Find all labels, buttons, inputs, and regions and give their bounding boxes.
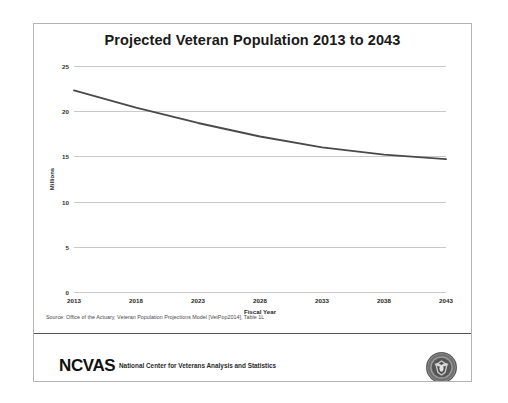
ncvas-wordmark: NCVAS [59,356,115,376]
y-tick-label: 0 [66,289,69,296]
slide-card: Projected Veteran Population 2013 to 204… [33,23,472,382]
x-tick-label: 2018 [129,297,143,304]
va-seal-icon [425,351,458,382]
x-tick-label: 2033 [315,297,329,304]
gridline [74,292,446,293]
line-series [74,66,446,292]
plot-area: 0510152025 2013201820232028203320382043 … [74,66,446,292]
x-tick-label: 2043 [439,297,453,304]
source-note: Source: Office of the Actuary, Veteran P… [46,314,264,320]
ncvas-tagline: National Center for Veterans Analysis an… [119,362,276,369]
y-tick-label: 25 [62,63,69,70]
y-tick-label: 15 [62,153,69,160]
y-tick-label: 20 [62,108,69,115]
x-tick-label: 2028 [253,297,267,304]
x-tick-label: 2023 [191,297,205,304]
chart-title: Projected Veteran Population 2013 to 204… [34,32,471,48]
x-tick-label: 2038 [377,297,391,304]
y-tick-label: 5 [66,243,69,250]
x-tick-label: 2013 [67,297,81,304]
y-tick-label: 10 [62,198,69,205]
y-axis-label: Millions [49,168,55,190]
slide-footer: NCVAS National Center for Veterans Analy… [34,335,471,381]
